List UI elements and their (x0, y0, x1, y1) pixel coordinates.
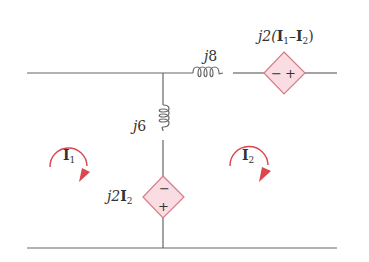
dependent-source-top: − + (264, 52, 305, 94)
dependent-source-middle-label: j2I2 (104, 188, 133, 206)
circuit-diagram: j8 − + j2(I1–I2) j6 − + j2I2 I1 I2 (0, 0, 369, 262)
source-top-plus-sign: + (285, 66, 296, 81)
dependent-source-middle: − + (143, 176, 184, 218)
dependent-source-top-label: j2(I1–I2) (255, 28, 314, 46)
inductor-j8 (193, 67, 223, 77)
source-top-minus-sign: − (271, 66, 282, 81)
mesh-current-i1-label: I1 (63, 147, 75, 165)
inductor-j8-label: j8 (201, 48, 217, 64)
source-middle-minus-sign: − (159, 181, 170, 196)
source-middle-plus-sign: + (158, 199, 169, 214)
inductor-j6 (159, 105, 169, 131)
mesh-current-i2-label: I2 (242, 147, 254, 165)
inductor-j6-label: j6 (130, 118, 146, 134)
